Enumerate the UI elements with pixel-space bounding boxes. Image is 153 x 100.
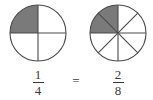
left-fraction-label: 1 4 <box>23 68 53 98</box>
right-fraction-numerator: 2 <box>115 68 122 81</box>
left-fraction-denominator: 4 <box>35 84 42 97</box>
right-fraction-label: 2 8 <box>103 68 133 98</box>
left-circle-model <box>10 5 66 61</box>
figure-canvas: 1 4 = 2 8 <box>0 0 153 100</box>
right-fraction-denominator: 8 <box>115 84 122 97</box>
right-circle-model <box>90 5 146 61</box>
equals-sign: = <box>66 74 86 87</box>
left-fraction-numerator: 1 <box>35 68 42 81</box>
